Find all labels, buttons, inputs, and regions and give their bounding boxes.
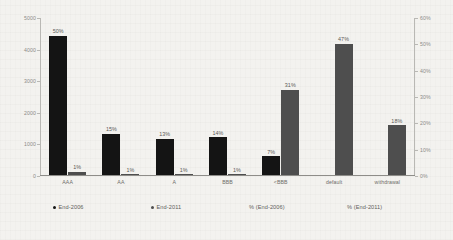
legend-label: % (End-2011) [347, 204, 382, 210]
bar-slot: 15% [102, 18, 120, 175]
bar-slot: 1% [68, 18, 86, 175]
bar-slot: 7% [262, 18, 280, 175]
legend-swatch-icon [53, 206, 56, 209]
legend-item[interactable]: % (End-2011) [337, 204, 435, 210]
left-axis-tick-label: 5000 [24, 15, 36, 21]
legend-item[interactable]: % (End-2006) [239, 204, 337, 210]
bar[interactable] [262, 156, 280, 175]
bar[interactable] [281, 90, 299, 175]
bar-group-bars: 15%1% [94, 18, 147, 175]
right-axis-tick-label: 60% [420, 15, 431, 21]
bar[interactable] [121, 174, 139, 175]
bar-groups: 50%1%AAA15%1%AA13%1%A14%1%BBB7%31%<BBB47… [41, 18, 414, 175]
bar-value-label: 1% [73, 164, 81, 170]
left-axis-tickmark [37, 18, 40, 19]
bar-slot: 13% [156, 18, 174, 175]
legend-label: End-2006 [59, 204, 84, 210]
left-axis-tick-label: 1000 [24, 141, 36, 147]
left-axis-tickmark [37, 113, 40, 114]
right-axis-tick-label: 40% [420, 68, 431, 74]
legend-label: % (End-2006) [249, 204, 285, 210]
left-axis-tickmark [37, 50, 40, 51]
legend-item[interactable]: End-2006 [43, 204, 141, 210]
left-axis-tickmark [37, 176, 40, 177]
left-axis-tickmark [37, 81, 40, 82]
bar-group: 14%1%BBB [201, 18, 254, 175]
left-axis-tick-label: 4000 [24, 47, 36, 53]
right-axis-tick-label: 30% [420, 94, 431, 100]
plot-area: 010002000300040005000 0%10%20%30%40%50%6… [40, 18, 415, 176]
right-axis-tick-label: 20% [420, 120, 431, 126]
bar-slot: 47% [335, 18, 353, 175]
bar-group-bars: 18% [361, 18, 414, 175]
bar-slot: 31% [281, 18, 299, 175]
legend-label: End-2011 [157, 204, 182, 210]
right-axis-tick-label: 0% [420, 173, 428, 179]
bar-value-label: 1% [180, 167, 188, 173]
bar-slot [369, 18, 387, 175]
bar-slot: 1% [121, 18, 139, 175]
bar[interactable] [228, 174, 246, 175]
right-axis-tick-label: 50% [420, 41, 431, 47]
bar-slot: 14% [209, 18, 227, 175]
bar-group-bars: 47% [307, 18, 360, 175]
bar-value-label: 1% [126, 167, 134, 173]
left-axis-tick-label: 2000 [24, 110, 36, 116]
bar-group-bars: 14%1% [201, 18, 254, 175]
right-axis-tick-label: 10% [420, 147, 431, 153]
bar-group-bars: 50%1% [41, 18, 94, 175]
x-axis-line [40, 175, 415, 176]
bar-value-label: 50% [53, 28, 64, 34]
x-axis-category-label: AAA [62, 179, 73, 185]
bar-slot: 1% [175, 18, 193, 175]
bar-value-label: 31% [285, 82, 296, 88]
bar-group: 50%1%AAA [41, 18, 94, 175]
bar-value-label: 7% [267, 149, 275, 155]
bar[interactable] [68, 172, 86, 175]
chart-container: 010002000300040005000 0%10%20%30%40%50%6… [0, 0, 453, 240]
chart-legend: End-2006End-2011% (End-2006)% (End-2011) [40, 199, 438, 215]
bar-slot: 50% [49, 18, 67, 175]
bar-slot [316, 18, 334, 175]
bar-slot: 18% [388, 18, 406, 175]
bar-value-label: 13% [159, 131, 170, 137]
right-axis-tickmark [415, 71, 418, 72]
bar-value-label: 18% [391, 118, 402, 124]
bar-group: 18%withdrawal [361, 18, 414, 175]
x-axis-category-label: A [172, 179, 176, 185]
right-axis-tickmark [415, 18, 418, 19]
bar[interactable] [335, 44, 353, 175]
bar-group: 13%1%A [148, 18, 201, 175]
x-axis-category-label: BBB [222, 179, 233, 185]
x-axis-category-label: <BBB [274, 179, 288, 185]
left-axis-tickmark [37, 144, 40, 145]
bar-group-bars: 7%31% [254, 18, 307, 175]
bar[interactable] [388, 125, 406, 175]
bar[interactable] [156, 139, 174, 175]
right-axis-tickmark [415, 176, 418, 177]
legend-swatch-icon [151, 206, 154, 209]
bar-slot: 1% [228, 18, 246, 175]
bar[interactable] [175, 174, 193, 175]
left-axis-tick-label: 3000 [24, 78, 36, 84]
right-axis-tickmark [415, 150, 418, 151]
right-axis-tickmark [415, 97, 418, 98]
bar-value-label: 1% [233, 167, 241, 173]
x-axis-category-label: AA [117, 179, 124, 185]
right-axis-tickmark [415, 44, 418, 45]
right-axis-tickmark [415, 123, 418, 124]
legend-item[interactable]: End-2011 [141, 204, 239, 210]
bar[interactable] [209, 137, 227, 175]
bar-value-label: 14% [213, 130, 224, 136]
bar-group: 7%31%<BBB [254, 18, 307, 175]
bar[interactable] [49, 36, 67, 175]
bar-group: 15%1%AA [94, 18, 147, 175]
bar-value-label: 15% [106, 126, 117, 132]
bar-group: 47%default [307, 18, 360, 175]
left-axis-tick-label: 0 [33, 173, 36, 179]
x-axis-category-label: default [326, 179, 342, 185]
x-axis-category-label: withdrawal [375, 179, 401, 185]
bar[interactable] [102, 134, 120, 175]
bar-group-bars: 13%1% [148, 18, 201, 175]
bar-value-label: 47% [338, 36, 349, 42]
